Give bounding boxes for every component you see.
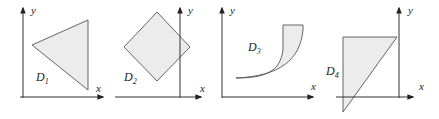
- y-axis-label: y: [187, 4, 193, 16]
- y-axis-label: y: [229, 4, 235, 16]
- figure-canvas: y x D1 y x D2 y x D3 y x D4: [0, 0, 439, 119]
- y-axis-label: y: [30, 4, 36, 16]
- region-label-d4: D4: [325, 64, 339, 80]
- region-d3: [236, 25, 303, 78]
- x-axis-label: x: [418, 80, 424, 92]
- region-label-d3: D3: [247, 40, 261, 56]
- region-d4: [343, 37, 397, 112]
- y-axis-label: y: [407, 4, 413, 16]
- panel-d4: y x D4: [325, 4, 424, 112]
- regions-diagram: y x D1 y x D2 y x D3 y x D4: [0, 0, 439, 119]
- panel-d2: y x D2: [115, 4, 205, 98]
- x-axis-label: x: [310, 80, 316, 92]
- x-axis-label: x: [199, 82, 205, 94]
- panel-d3: y x D3: [222, 4, 316, 98]
- x-axis-label: x: [95, 82, 101, 94]
- panel-d1: y x D1: [20, 4, 103, 98]
- region-label-d1: D1: [35, 70, 49, 86]
- region-label-d2: D2: [123, 70, 137, 86]
